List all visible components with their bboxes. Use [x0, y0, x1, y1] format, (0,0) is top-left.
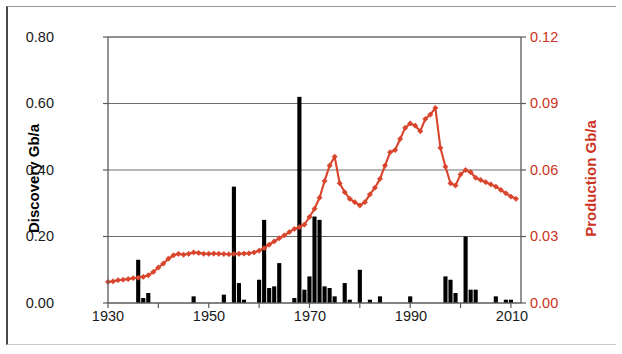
production-marker-1952: [216, 251, 221, 256]
chart-canvas: Discovery Gb/a Production Gb/a 0.80 0.60…: [0, 0, 622, 354]
discovery-bar-2002: [469, 290, 473, 303]
discovery-bar-1964: [277, 263, 281, 303]
discovery-bar-1937: [141, 298, 145, 303]
production-marker-1985: [382, 163, 387, 168]
production-marker-1944: [176, 251, 181, 256]
discovery-bar-1936: [136, 260, 140, 303]
production-marker-1996: [438, 145, 443, 150]
production-marker-1951: [211, 251, 216, 256]
discovery-bar-1973: [323, 286, 327, 303]
discovery-bar-1971: [312, 217, 316, 303]
discovery-bar-1962: [267, 288, 271, 303]
discovery-bar-1960: [257, 280, 261, 303]
discovery-bar-1953: [222, 295, 226, 303]
discovery-bar-1984: [378, 296, 382, 303]
production-marker-1958: [246, 251, 251, 256]
production-marker-1959: [251, 250, 256, 255]
production-line-group: [105, 105, 518, 284]
production-marker-1956: [236, 251, 241, 256]
discovery-bar-2007: [494, 296, 498, 303]
discovery-bar-1977: [343, 283, 347, 303]
production-marker-1947: [191, 250, 196, 255]
discovery-bar-2003: [474, 290, 478, 303]
discovery-bar-1947: [192, 296, 196, 303]
discovery-bar-1980: [358, 270, 362, 303]
discovery-bar-1968: [297, 97, 301, 303]
discovery-bar-1969: [302, 290, 306, 303]
production-marker-1973: [322, 178, 327, 183]
discovery-bars-group: [136, 97, 513, 303]
production-marker-1937: [141, 274, 146, 279]
discovery-bar-1961: [262, 220, 266, 303]
discovery-bar-1999: [453, 293, 457, 303]
production-marker-1931: [110, 279, 115, 284]
plot-svg: [0, 0, 622, 354]
production-line-path: [108, 108, 516, 282]
discovery-bar-1998: [448, 280, 452, 303]
production-marker-1945: [181, 252, 186, 257]
discovery-bar-1990: [408, 296, 412, 303]
production-marker-1950: [206, 251, 211, 256]
production-marker-1948: [196, 250, 201, 255]
discovery-bar-1938: [146, 293, 150, 303]
discovery-bar-2001: [464, 237, 468, 304]
discovery-bar-1963: [272, 286, 276, 303]
discovery-bar-1972: [317, 220, 321, 303]
production-marker-1946: [186, 251, 191, 256]
production-marker-1953: [221, 251, 226, 256]
discovery-bar-1955: [232, 187, 236, 303]
discovery-bar-1997: [443, 276, 447, 303]
production-marker-1949: [201, 251, 206, 256]
production-marker-1933: [121, 277, 126, 282]
discovery-bar-1956: [237, 283, 241, 303]
figure-container: Discovery Gb/a Production Gb/a 0.80 0.60…: [0, 0, 622, 354]
production-marker-1954: [226, 252, 231, 257]
production-marker-1932: [115, 278, 120, 283]
production-marker-1935: [131, 276, 136, 281]
discovery-bar-1970: [307, 276, 311, 303]
discovery-bar-1974: [328, 288, 332, 303]
production-marker-1957: [241, 251, 246, 256]
production-marker-1997: [443, 164, 448, 169]
discovery-bar-1967: [292, 298, 296, 303]
production-marker-1934: [126, 276, 131, 281]
discovery-bar-1975: [333, 296, 337, 303]
